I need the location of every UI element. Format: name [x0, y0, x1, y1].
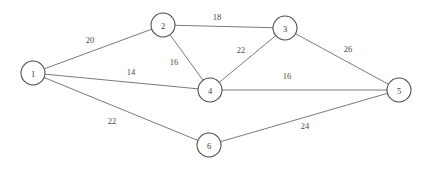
edge-weight-3-4: 22 — [237, 45, 246, 55]
graph-edge-1-4 — [45, 74, 198, 89]
edge-weight-2-4: 16 — [170, 57, 179, 67]
graph-figure: 123456 201816221426162224 — [0, 0, 432, 169]
edge-weight-1-4: 14 — [127, 67, 136, 77]
edge-weight-4-5: 16 — [283, 71, 292, 81]
node-label-1: 1 — [31, 69, 35, 79]
nodes-layer: 123456 — [21, 13, 411, 157]
graph-edge-1-2 — [44, 29, 151, 69]
edge-weight-1-2: 20 — [86, 35, 95, 45]
graph-node-6[interactable]: 6 — [197, 133, 221, 157]
graph-canvas: 123456 201816221426162224 — [0, 0, 432, 169]
node-label-5: 5 — [397, 86, 401, 96]
edge-weight-3-5: 26 — [344, 44, 353, 54]
graph-node-2[interactable]: 2 — [151, 13, 175, 37]
graph-edge-3-4 — [219, 36, 276, 83]
graph-edge-6-5 — [221, 93, 388, 141]
graph-edge-2-3 — [175, 25, 273, 27]
node-label-3: 3 — [283, 24, 287, 34]
graph-node-4[interactable]: 4 — [198, 78, 222, 102]
graph-node-5[interactable]: 5 — [387, 78, 411, 102]
edge-weight-2-3: 18 — [213, 12, 222, 22]
graph-node-1[interactable]: 1 — [21, 61, 45, 85]
graph-edge-3-5 — [296, 34, 389, 85]
node-label-2: 2 — [161, 21, 165, 31]
node-label-6: 6 — [207, 141, 211, 151]
graph-node-3[interactable]: 3 — [273, 16, 297, 40]
edge-weights-layer: 201816221426162224 — [86, 12, 353, 131]
edge-weight-1-6: 22 — [108, 116, 117, 126]
edge-weight-6-5: 24 — [301, 121, 310, 131]
